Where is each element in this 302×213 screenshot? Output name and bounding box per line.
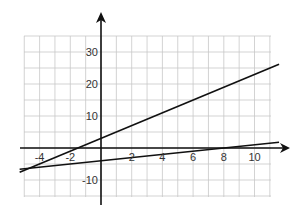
x-tick-label: 4 (159, 151, 165, 163)
grid (24, 36, 271, 197)
y-tick-label: -10 (82, 174, 98, 186)
y-tick-label: 20 (86, 78, 98, 90)
x-tick-label: -4 (35, 151, 45, 163)
line-chart: -4-2246810302010-10 (0, 0, 302, 213)
x-tick-label: 2 (129, 151, 135, 163)
x-tick-label: 8 (221, 151, 227, 163)
axes (20, 12, 290, 205)
x-tick-label: -2 (65, 151, 75, 163)
x-tick-label: 6 (190, 151, 196, 163)
y-tick-label: 30 (86, 46, 98, 58)
x-tick-label: 10 (248, 151, 260, 163)
y-tick-label: 10 (86, 110, 98, 122)
series-lines (20, 64, 279, 172)
